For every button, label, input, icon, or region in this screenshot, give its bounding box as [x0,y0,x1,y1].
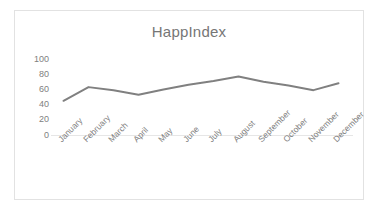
y-tick-label: 0 [44,131,49,140]
chart-title: HappIndex [15,23,363,40]
line-series-happindex [64,76,339,100]
chart-screenshot: HappIndex 100806040200 JanuaryFebruaryMa… [0,0,382,215]
y-tick-label: 60 [39,85,49,94]
y-tick-label: 20 [39,115,49,124]
y-tick-label: 100 [34,55,49,64]
y-axis-tick-labels: 100806040200 [21,52,49,142]
chart-frame: HappIndex 100806040200 JanuaryFebruaryMa… [14,10,364,200]
x-axis-tick-labels: JanuaryFebruaryMarchAprilMayJuneJulyAugu… [51,137,351,205]
y-tick-label: 40 [39,100,49,109]
y-tick-label: 80 [39,70,49,79]
